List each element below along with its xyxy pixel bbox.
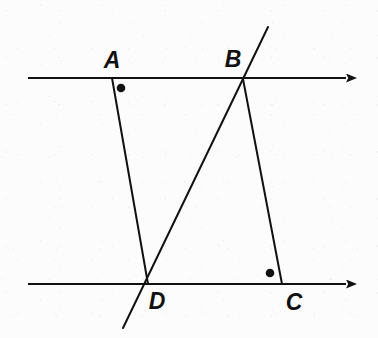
geometry-figure: A B C D [0, 0, 378, 338]
vertex-label-c: C [286, 291, 303, 314]
segment-bc [243, 79, 282, 284]
geometry-diagram-canvas [0, 0, 378, 338]
vertex-label-a: A [104, 49, 121, 72]
angle-dot-at-a-icon [117, 84, 126, 93]
vertex-label-b: B [225, 48, 242, 71]
transversal-line-db [123, 27, 268, 328]
segment-ad [112, 78, 148, 284]
angle-dot-at-c-icon [266, 269, 275, 278]
vertex-label-d: D [149, 290, 166, 313]
